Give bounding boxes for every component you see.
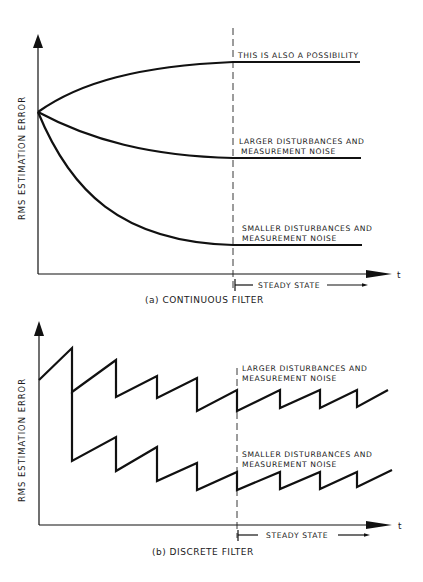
- label-smaller-line1: SMALLER DISTURBANCES AND: [242, 224, 372, 233]
- label-smaller-line2: MEASUREMENT NOISE: [242, 460, 337, 469]
- x-axis-arrow-icon: [366, 270, 392, 278]
- curve-smaller-noise: [72, 392, 392, 490]
- label-smaller-line2: MEASUREMENT NOISE: [242, 234, 337, 243]
- steady-state-arrow-icon: [362, 283, 368, 286]
- label-possibility: THIS IS ALSO A POSSIBILITY: [237, 51, 359, 60]
- y-axis-arrow-icon: [34, 321, 44, 336]
- panel-b-discrete-filter: RMS ESTIMATION ERROR t LARGER DISTURBANC…: [17, 321, 402, 557]
- steady-state-label: STEADY STATE: [266, 531, 328, 540]
- label-larger-line2: MEASUREMENT NOISE: [242, 374, 337, 383]
- curve-possibility: [38, 62, 360, 112]
- label-smaller-line1: SMALLER DISTURBANCES AND: [242, 450, 372, 459]
- label-larger-line1: LARGER DISTURBANCES AND: [239, 137, 365, 146]
- steady-state-label: STEADY STATE: [258, 281, 320, 290]
- y-axis-label: RMS ESTIMATION ERROR: [17, 96, 27, 220]
- y-axis-label: RMS ESTIMATION ERROR: [17, 378, 27, 502]
- figure-canvas: RMS ESTIMATION ERROR t THIS IS ALSO A PO…: [0, 0, 423, 582]
- label-larger-line1: LARGER DISTURBANCES AND: [242, 364, 368, 373]
- x-axis-label: t: [398, 521, 402, 531]
- y-axis-arrow-icon: [33, 34, 43, 48]
- panel-a-caption: (a) CONTINUOUS FILTER: [145, 295, 264, 305]
- label-larger-line2: MEASUREMENT NOISE: [241, 147, 336, 156]
- panel-b-caption: (b) DISCRETE FILTER: [152, 547, 254, 557]
- panel-a-continuous-filter: RMS ESTIMATION ERROR t THIS IS ALSO A PO…: [17, 28, 401, 305]
- steady-state-arrow-icon: [364, 533, 370, 536]
- x-axis-label: t: [397, 270, 401, 280]
- x-axis-arrow-icon: [366, 521, 392, 529]
